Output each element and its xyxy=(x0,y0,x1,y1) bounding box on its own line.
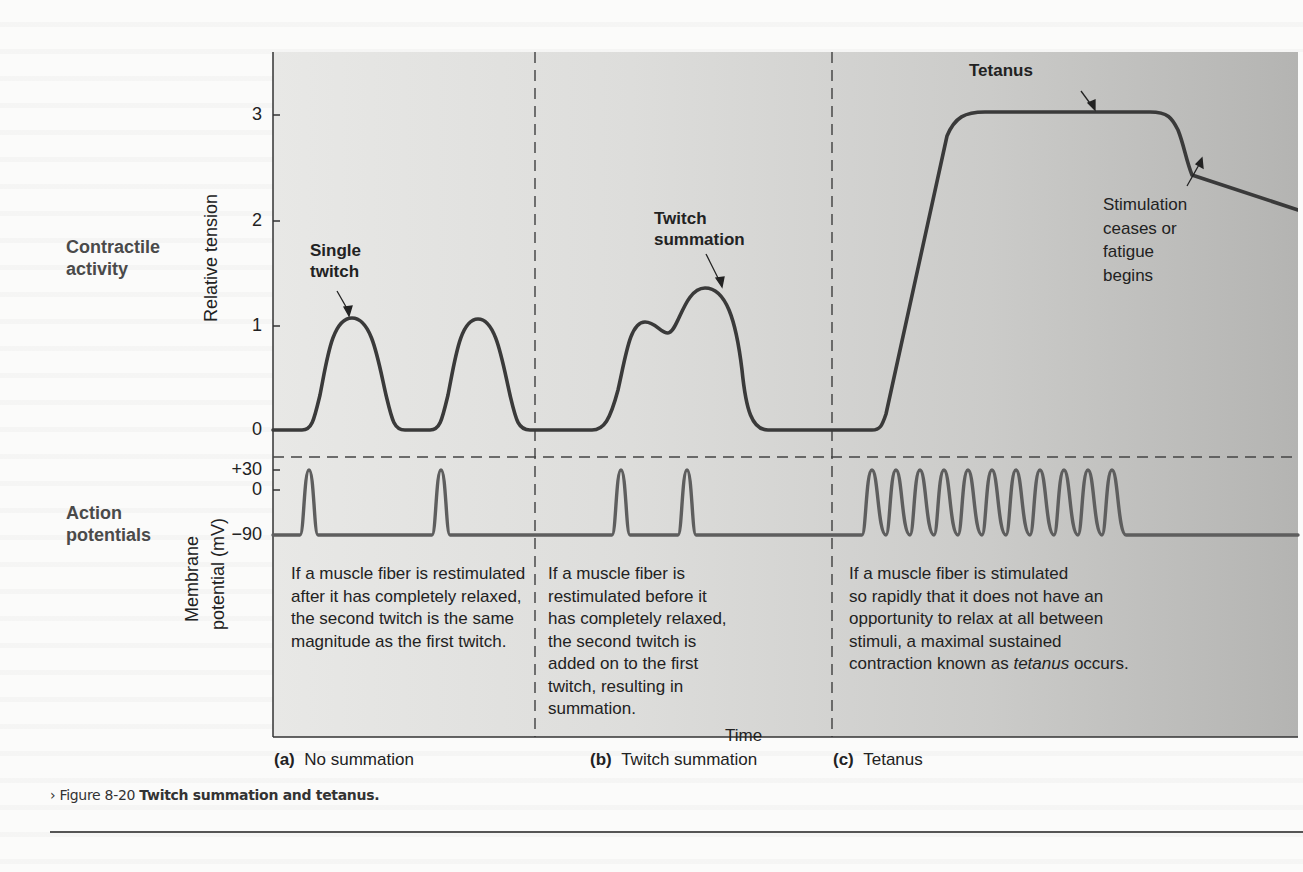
description-panel-a: If a muscle fiber is restimulated after … xyxy=(291,563,525,653)
annotation-single-twitch: Single twitch xyxy=(310,240,361,282)
panel-label-c: (c) Tetanus xyxy=(833,750,923,770)
panel-label-b: (b) Twitch summation xyxy=(590,750,757,770)
figure-plot xyxy=(0,0,1303,872)
panel-label-a: (a) No summation xyxy=(274,750,414,770)
y-axis-label-membrane-1: Membrane xyxy=(182,536,203,622)
row-label-contractile: Contractile activity xyxy=(66,236,160,280)
annotation-twitch-summation: Twitch summation xyxy=(654,208,745,250)
description-panel-c: If a muscle fiber is stimulated so rapid… xyxy=(849,563,1129,676)
tick-membrane-0: 0 xyxy=(212,479,262,500)
annotation-tetanus: Tetanus xyxy=(969,60,1033,81)
tick-membrane-plus30: +30 xyxy=(212,459,262,480)
page-rule-divider xyxy=(50,831,1303,833)
tick-tension-3: 3 xyxy=(212,104,262,125)
tick-membrane-minus90: −90 xyxy=(212,524,262,545)
annotation-stimulation-ceases: Stimulation ceases or fatigue begins xyxy=(1103,193,1187,287)
description-panel-b: If a muscle fiber is restimulated before… xyxy=(548,563,727,721)
figure-caption: › Figure 8-20 Twitch summation and tetan… xyxy=(50,787,379,803)
tick-tension-2: 2 xyxy=(212,210,262,231)
tick-tension-0: 0 xyxy=(212,419,262,440)
x-axis-label: Time xyxy=(725,726,762,746)
tick-tension-1: 1 xyxy=(212,315,262,336)
row-label-action-potentials: Action potentials xyxy=(66,502,151,546)
